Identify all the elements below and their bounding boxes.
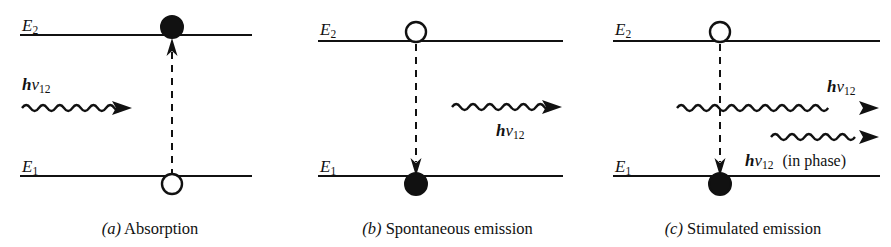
stimulated-photon-arrowhead	[859, 130, 879, 144]
lower-energy-level-label: E1	[320, 158, 336, 178]
incident-photon-wave	[677, 105, 828, 111]
incident-photon-arrowhead	[859, 101, 879, 115]
panel-b-caption: (b) Spontaneous emission	[300, 219, 595, 239]
upper-state-open-circle	[710, 22, 730, 42]
upper-state-open-circle	[406, 22, 426, 42]
panel-absorption: E2 E1 hν12 (a) Absorption	[0, 0, 300, 247]
lower-state-open-circle	[162, 174, 182, 194]
lower-state-filled-circle	[405, 173, 427, 195]
upper-energy-level-label: E2	[320, 21, 336, 41]
panel-c-caption: (c) Stimulated emission	[595, 219, 891, 239]
incident-photon-label: hν12	[827, 78, 856, 98]
energy-level-transition-figure: E2 E1 hν12 (a) Absorption E2	[0, 0, 891, 247]
upper-energy-level-label: E2	[615, 21, 631, 41]
stimulated-photon-wave	[771, 134, 855, 140]
lower-energy-level-label: E1	[22, 158, 38, 178]
upper-state-filled-circle	[161, 16, 183, 38]
panel-stimulated-emission: E2 E1 hν12 hν12(in phase) (c) Stimulated…	[595, 0, 891, 247]
panel-c-graphics	[595, 0, 891, 247]
emitted-photon-label: hν12	[496, 122, 525, 142]
panel-spontaneous-emission: E2 E1 hν12 (b) Spontaneous emission	[300, 0, 595, 247]
incident-photon-wave	[22, 105, 123, 111]
lower-state-filled-circle	[709, 173, 731, 195]
panel-a-caption: (a) Absorption	[0, 219, 300, 239]
panel-b-graphics	[300, 0, 595, 247]
stimulated-photon-label: hν12(in phase)	[745, 152, 846, 172]
lower-energy-level-label: E1	[615, 158, 631, 178]
emitted-photon-wave	[452, 104, 553, 110]
in-phase-note: (in phase)	[783, 152, 847, 169]
upper-energy-level-label: E2	[22, 17, 38, 37]
incident-photon-label: hν12	[22, 76, 51, 96]
panel-a-graphics	[0, 0, 300, 247]
